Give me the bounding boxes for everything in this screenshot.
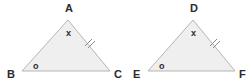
diagram-canvas: A B C x o D E F x o <box>0 0 251 84</box>
vertex-label-e: E <box>133 68 140 80</box>
vertex-label-b: B <box>7 68 15 80</box>
angle-mark-b-o: o <box>33 61 39 71</box>
geometry-diagram: A B C x o D E F x o <box>0 0 251 84</box>
angle-mark-a-x: x <box>66 28 71 38</box>
vertex-label-f: F <box>239 68 246 80</box>
vertex-label-d: D <box>190 2 198 14</box>
vertex-label-a: A <box>65 2 73 14</box>
angle-mark-d-x: x <box>191 28 196 38</box>
triangle-def-group: D E F x o <box>133 2 246 80</box>
angle-mark-e-o: o <box>159 61 165 71</box>
triangle-abc-group: A B C x o <box>7 2 122 80</box>
vertex-label-c: C <box>114 68 122 80</box>
